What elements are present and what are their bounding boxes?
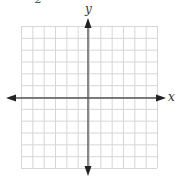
coordinate-plane bbox=[0, 0, 175, 178]
x-axis-right-arrow-icon bbox=[156, 95, 166, 102]
x-axis-label: x bbox=[168, 91, 175, 103]
problem-number: 2 bbox=[35, 0, 42, 5]
grid-lines bbox=[21, 26, 158, 169]
y-axis-down-arrow-icon bbox=[85, 166, 92, 176]
x-axis-left-arrow-icon bbox=[6, 95, 16, 102]
y-axis-up-arrow-icon bbox=[85, 18, 92, 28]
y-axis-label: y bbox=[85, 3, 92, 15]
